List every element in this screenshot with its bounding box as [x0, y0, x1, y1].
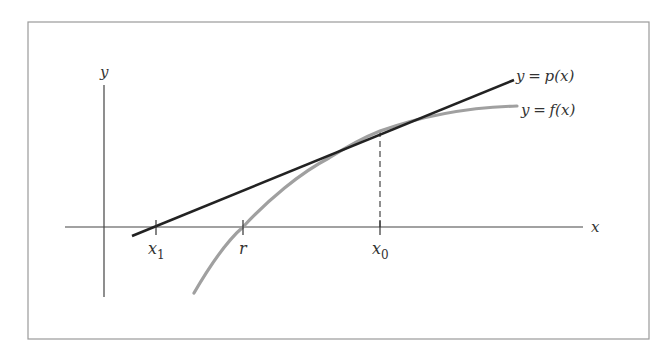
- x-axis-label: x: [591, 218, 600, 236]
- tick-label-x1: x1: [148, 239, 165, 262]
- tangent-line-p: [132, 80, 514, 236]
- newton-method-diagram: y x x1 r x0 y = p(x) y = f(x): [0, 0, 669, 362]
- tick-label-r: r: [239, 239, 248, 258]
- tangent-line-label: y = p(x): [515, 67, 574, 85]
- y-axis-label: y: [99, 63, 109, 81]
- tick-label-x0: x0: [372, 239, 389, 262]
- curve-label: y = f(x): [520, 101, 575, 119]
- curve-f: [194, 106, 517, 293]
